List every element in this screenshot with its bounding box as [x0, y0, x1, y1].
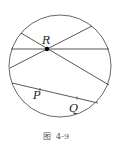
- label-r: R: [41, 34, 50, 47]
- line-descending-through-r: [21, 33, 109, 85]
- figure-caption: 图 4-9: [43, 132, 69, 141]
- label-p: P: [32, 89, 41, 102]
- circle-diagram: R P Q 图 4-9: [0, 0, 121, 148]
- label-q: Q: [69, 102, 78, 115]
- chord-pq: [12, 83, 98, 103]
- circle: [9, 15, 111, 117]
- point-r-dot: [45, 47, 49, 51]
